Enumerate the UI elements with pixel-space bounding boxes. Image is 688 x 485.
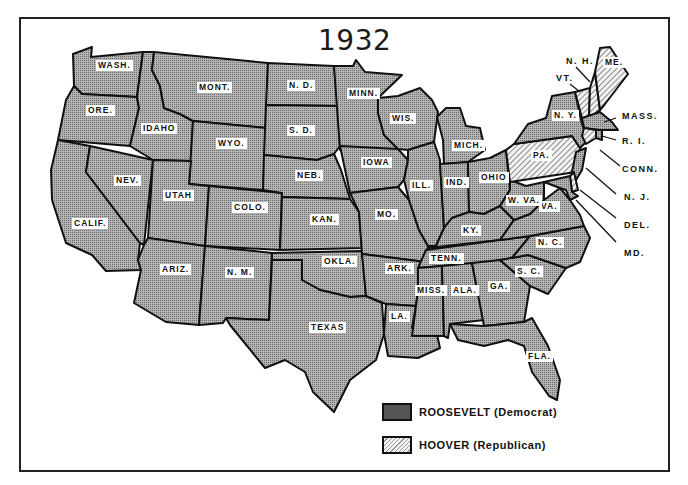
label-me: ME. <box>603 57 625 68</box>
state-mich <box>437 108 485 164</box>
label-del: DEL. <box>624 220 651 230</box>
label-sc: S. C. <box>515 266 543 277</box>
label-nc: N. C. <box>536 237 564 248</box>
legend-label-democrat: ROOSEVELT (Democrat) <box>419 406 557 418</box>
state-nm <box>199 246 272 325</box>
label-nev: NEV. <box>114 175 141 186</box>
label-pa: PA. <box>531 150 552 161</box>
state-conn <box>582 128 596 144</box>
label-ariz: ARIZ. <box>160 264 191 275</box>
label-minn: MINN. <box>347 88 380 99</box>
label-ny: N. Y. <box>552 110 579 121</box>
state-wyo <box>189 121 266 190</box>
label-mich: MICH. <box>452 140 485 151</box>
label-kan: KAN. <box>310 214 339 225</box>
state-colo <box>205 186 282 250</box>
state-iowa <box>340 146 408 193</box>
label-sd: S. D. <box>287 125 315 136</box>
label-conn: CONN. <box>622 164 659 174</box>
label-ind: IND. <box>444 177 469 188</box>
dotted-swatch-icon <box>382 403 412 421</box>
label-wis: WIS. <box>390 113 416 124</box>
label-md: MD. <box>624 248 645 258</box>
label-wyo: WYO. <box>216 138 247 149</box>
label-tenn: TENN. <box>429 253 464 264</box>
legend-label-republican: HOOVER (Republican) <box>419 439 546 451</box>
label-mass: MASS. <box>622 111 658 121</box>
label-utah: UTAH <box>163 190 194 201</box>
label-neb: NEB. <box>295 170 323 181</box>
label-miss: MISS. <box>415 285 447 296</box>
label-mont: MONT. <box>197 82 232 93</box>
label-ky: KY. <box>461 225 481 236</box>
label-ore: ORE. <box>86 105 115 116</box>
label-va: VA. <box>539 201 560 212</box>
label-wash: WASH. <box>96 60 133 71</box>
label-okla: OKLA. <box>322 256 357 267</box>
label-ala: ALA. <box>451 285 479 296</box>
legend-item-democrat: ROOSEVELT (Democrat) <box>382 403 557 421</box>
label-ga: GA. <box>488 281 510 292</box>
label-mo: MO. <box>375 209 398 220</box>
label-colo: COLO. <box>232 202 268 213</box>
label-fla: FLA. <box>526 351 553 362</box>
state-wash <box>73 47 143 97</box>
label-idaho: IDAHO <box>141 123 177 134</box>
label-iowa: IOWA <box>361 157 392 168</box>
label-nh: N. H. <box>566 56 594 66</box>
label-texas: TEXAS <box>309 322 346 333</box>
state-ariz <box>134 238 205 325</box>
label-nj: N. J. <box>624 192 651 202</box>
label-calif: CALIF. <box>72 218 108 229</box>
label-wva: W. VA. <box>506 195 542 206</box>
label-vt: VT. <box>556 73 574 83</box>
label-nd: N. D. <box>287 80 315 91</box>
label-nm: N. M. <box>225 267 254 278</box>
label-ri: R. I. <box>622 136 646 146</box>
legend-item-republican: HOOVER (Republican) <box>382 436 546 454</box>
label-ill: ILL. <box>410 180 433 191</box>
label-la: LA. <box>389 311 410 322</box>
us-electoral-map <box>0 0 688 485</box>
hatched-swatch-icon <box>382 436 412 454</box>
label-ohio: OHIO <box>479 172 509 183</box>
label-ark: ARK. <box>385 263 414 274</box>
